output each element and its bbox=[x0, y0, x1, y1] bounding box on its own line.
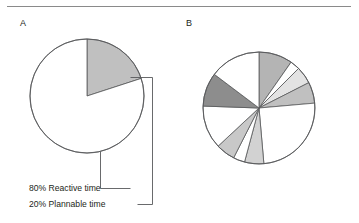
pie-slice bbox=[259, 103, 315, 164]
figure-container: A B 80% Reactive time 20% Plannable time bbox=[0, 0, 359, 223]
callout-label-reactive: 80% Reactive time bbox=[29, 184, 101, 193]
panel-a-pie bbox=[30, 39, 144, 153]
callout-label-plannable: 20% Plannable time bbox=[29, 200, 105, 209]
panel-b-pie bbox=[203, 52, 315, 164]
leader-line-reactive bbox=[101, 152, 131, 189]
